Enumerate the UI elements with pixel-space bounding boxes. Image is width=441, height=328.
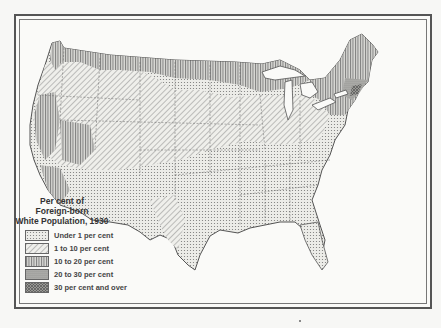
legend-label: 1 to 10 per cent	[54, 244, 109, 253]
swatch-vertical-lines	[25, 256, 49, 267]
swatch-dense-dots	[25, 269, 49, 280]
legend-item-20-to-30: 20 to 30 per cent	[25, 268, 174, 281]
legend-title-line-3: White Population, 1930	[14, 216, 110, 226]
legend-label: Under 1 per cent	[54, 231, 113, 240]
legend-item-under-1: Under 1 per cent	[25, 229, 174, 242]
legend-item-30-and-over: 30 per cent and over	[25, 281, 174, 294]
legend-label: 30 per cent and over	[54, 283, 127, 292]
swatch-fine-dots	[25, 230, 49, 241]
florida	[300, 222, 328, 270]
legend-title: Per cent of Foreign-born White Populatio…	[14, 196, 110, 226]
legend-title-line-2: Foreign-born	[14, 206, 110, 216]
legend-item-1-to-10: 1 to 10 per cent	[25, 242, 174, 255]
swatch-diagonal-hatch	[25, 243, 49, 254]
swatch-dark-crosshatch	[25, 282, 49, 293]
map-legend: Per cent of Foreign-born White Populatio…	[14, 196, 174, 294]
scan-speck	[299, 320, 301, 322]
legend-item-10-to-20: 10 to 20 per cent	[25, 255, 174, 268]
legend-title-line-1: Per cent of	[14, 196, 110, 206]
legend-label: 20 to 30 per cent	[54, 270, 113, 279]
legend-label: 10 to 20 per cent	[54, 257, 113, 266]
